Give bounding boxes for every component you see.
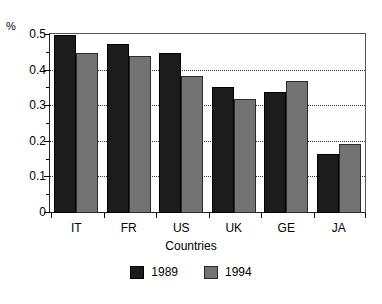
bar-group [54, 34, 98, 213]
legend-swatch-1994 [204, 266, 218, 279]
bar-chart: % 00.10.20.30.40.5 ITFRUSUKGEJA Countrie… [0, 0, 382, 304]
y-tick-label: 0 [39, 206, 46, 218]
y-tick-label: 0.3 [29, 99, 46, 111]
x-axis-title: Countries [0, 240, 382, 253]
legend-label-1994: 1994 [225, 266, 252, 279]
y-tick-label: 0.4 [29, 64, 46, 76]
bar-group [317, 34, 361, 213]
bar-UK-1989 [212, 87, 234, 213]
chart-legend: 19891994 [0, 266, 382, 279]
bar-JA-1989 [317, 154, 339, 213]
x-tick-label-GE: GE [260, 222, 313, 235]
x-tick [51, 213, 52, 218]
bar-group [212, 34, 256, 213]
y-tick-label: 0.2 [29, 135, 46, 147]
x-tick-label-JA: JA [313, 222, 366, 235]
legend-item-1989[interactable]: 1989 [130, 266, 178, 279]
y-axis-unit-label: % [6, 20, 16, 32]
legend-label-1989: 1989 [151, 266, 178, 279]
bar-US-1989 [159, 53, 181, 213]
legend-swatch-1989 [130, 266, 144, 279]
x-axis-ticks [0, 213, 382, 221]
bar-IT-1989 [54, 35, 76, 213]
bar-UK-1994 [234, 99, 256, 213]
x-tick [156, 213, 157, 218]
x-tick [209, 213, 210, 218]
bar-GE-1989 [264, 92, 286, 213]
x-tick [261, 213, 262, 218]
bar-FR-1994 [129, 56, 151, 213]
x-tick-label-IT: IT [50, 222, 103, 235]
bar-GE-1994 [286, 81, 308, 213]
x-tick [365, 213, 366, 218]
x-tick-label-FR: FR [103, 222, 156, 235]
bar-IT-1994 [76, 53, 98, 213]
bar-group [264, 34, 308, 213]
legend-item-1994[interactable]: 1994 [204, 266, 252, 279]
x-tick [314, 213, 315, 218]
x-tick-label-UK: UK [208, 222, 261, 235]
bar-group [107, 34, 151, 213]
y-tick-label: 0.1 [29, 170, 46, 182]
bar-group [159, 34, 203, 213]
x-tick-label-US: US [155, 222, 208, 235]
x-tick [104, 213, 105, 218]
bar-series-layer [50, 34, 365, 213]
bar-FR-1989 [107, 44, 129, 213]
y-tick-label: 0.5 [29, 28, 46, 40]
bar-JA-1994 [339, 144, 361, 213]
bar-US-1994 [181, 76, 203, 213]
